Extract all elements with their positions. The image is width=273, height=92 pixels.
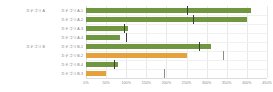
group-label-column: カテゴリAカテゴリB [0, 6, 48, 78]
x-axis: 0%50%100%150%200%250%300%350%400%450% [86, 78, 267, 90]
group-label: カテゴリA [26, 9, 45, 13]
row-separator [86, 51, 267, 52]
bar[interactable] [86, 8, 251, 13]
row-label-column: カテゴリA-1カテゴリA-2カテゴリA-3カテゴリA-4カテゴリB-1カテゴリB… [48, 6, 86, 78]
bar[interactable] [86, 26, 128, 31]
x-tick-label: 450% [262, 81, 271, 85]
row-label: カテゴリA-2 [61, 18, 83, 22]
target-marker[interactable] [124, 24, 125, 33]
target-marker[interactable] [223, 51, 224, 60]
bar[interactable] [86, 71, 106, 76]
row-separator [86, 24, 267, 25]
target-marker[interactable] [164, 69, 165, 78]
row-separator [86, 15, 267, 16]
x-tick-label: 250% [182, 81, 191, 85]
row-label: カテゴリA-3 [61, 27, 83, 31]
x-tick-label: 100% [122, 81, 131, 85]
group-label: カテゴリB [26, 45, 45, 49]
bar[interactable] [86, 53, 187, 58]
row-label: カテゴリA-1 [61, 9, 83, 13]
plot-area [86, 6, 267, 78]
row-separator [86, 69, 267, 70]
bullet-bar-chart: カテゴリAカテゴリB カテゴリA-1カテゴリA-2カテゴリA-3カテゴリA-4カ… [0, 0, 273, 92]
target-marker[interactable] [199, 42, 200, 51]
row-label: カテゴリB-2 [61, 54, 83, 58]
x-tick-label: 300% [202, 81, 211, 85]
axis-rule [86, 78, 267, 79]
x-tick-label: 350% [222, 81, 231, 85]
row-label: カテゴリB-4 [61, 63, 83, 67]
target-marker[interactable] [126, 33, 127, 42]
row-label: カテゴリA-4 [61, 36, 83, 40]
x-tick-label: 200% [162, 81, 171, 85]
row-label: カテゴリB-1 [61, 45, 83, 49]
target-marker[interactable] [193, 15, 194, 24]
target-marker[interactable] [187, 6, 188, 15]
bar[interactable] [86, 17, 247, 22]
grid-line [267, 6, 268, 78]
x-tick-label: 150% [142, 81, 151, 85]
x-tick-label: 50% [102, 81, 109, 85]
x-tick-label: 400% [242, 81, 251, 85]
x-tick-label: 0% [83, 81, 88, 85]
bar[interactable] [86, 44, 211, 49]
row-separator [86, 42, 267, 43]
row-label: カテゴリB-3 [61, 72, 83, 76]
row-separator [86, 60, 267, 61]
row-separator [86, 33, 267, 34]
target-marker[interactable] [114, 60, 115, 69]
bar[interactable] [86, 35, 120, 40]
